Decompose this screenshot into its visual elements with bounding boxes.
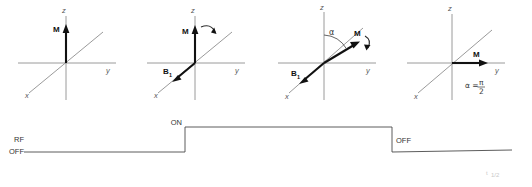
alpha-angle-label: α xyxy=(329,28,334,37)
rotation-arc-arrowhead xyxy=(364,45,371,51)
panel-1-svg: z y x M xyxy=(0,0,133,112)
alpha-equation-denominator: 2 xyxy=(479,87,484,96)
x-axis-label: x xyxy=(413,92,418,101)
vector-diagram-panel-2: z y x M B 1 xyxy=(133,0,266,112)
m-vector-label: M xyxy=(53,25,60,34)
y-axis-label: y xyxy=(365,66,371,75)
z-axis-label: z xyxy=(190,6,195,15)
vector-diagram-panel-4: z y x M α = π 2 xyxy=(399,0,532,112)
x-axis-label: x xyxy=(24,91,29,100)
m-vector-label: M xyxy=(182,27,189,36)
time-artifact-label: t xyxy=(486,170,488,176)
z-axis-label: z xyxy=(447,4,452,13)
off-label-start: OFF xyxy=(9,147,24,156)
x-axis-label: x xyxy=(153,91,158,100)
time-artifact-subscript: 1/2 xyxy=(491,172,500,178)
off-label-end: OFF xyxy=(396,136,411,145)
panel-2-svg: z y x M B 1 xyxy=(133,0,266,112)
m-vector-label: M xyxy=(473,50,480,59)
alpha-equation: α = π 2 xyxy=(465,78,485,96)
m-vector-arrowhead xyxy=(479,60,488,67)
m-vector-arrowhead xyxy=(192,25,199,34)
z-axis-label: z xyxy=(61,6,66,15)
m-vector-arrowhead xyxy=(63,24,70,33)
z-axis-label: z xyxy=(319,3,324,12)
y-axis-label: y xyxy=(105,66,111,75)
rf-pulse-waveform xyxy=(24,127,512,152)
m-vector-label: M xyxy=(354,29,361,38)
vector-diagram-panel-1: z y x M xyxy=(0,0,133,112)
rotation-arc-arrowhead xyxy=(211,28,217,34)
alpha-equation-numerator: π xyxy=(479,78,484,87)
b1-vector-shaft xyxy=(304,63,324,80)
alpha-angle-arc xyxy=(324,35,347,49)
rf-pulse-timing-diagram: RF OFF ON OFF t 1/2 xyxy=(0,112,532,187)
b1-vector-shaft xyxy=(177,63,195,78)
x-axis-label: x xyxy=(284,92,289,101)
m-vector-shaft xyxy=(324,45,354,63)
rf-label: RF xyxy=(14,135,24,144)
panel-3-svg: z y x α M B 1 xyxy=(266,0,399,112)
alpha-equation-lhs: α = xyxy=(465,81,479,90)
on-label: ON xyxy=(171,118,182,127)
y-axis-label: y xyxy=(234,66,240,75)
b1-vector-subscript: 1 xyxy=(169,72,172,78)
panel-4-svg: z y x M α = π 2 xyxy=(399,0,532,112)
y-axis-label: y xyxy=(494,66,500,75)
vector-diagram-panel-3: z y x α M B 1 xyxy=(266,0,399,112)
time-axis-artifact: t 1/2 xyxy=(486,170,500,178)
pulse-svg: RF OFF ON OFF t 1/2 xyxy=(0,112,532,187)
b1-vector-subscript: 1 xyxy=(297,74,300,80)
nmr-rf-pulse-figure: z y x M z y x M B 1 xyxy=(0,0,532,187)
